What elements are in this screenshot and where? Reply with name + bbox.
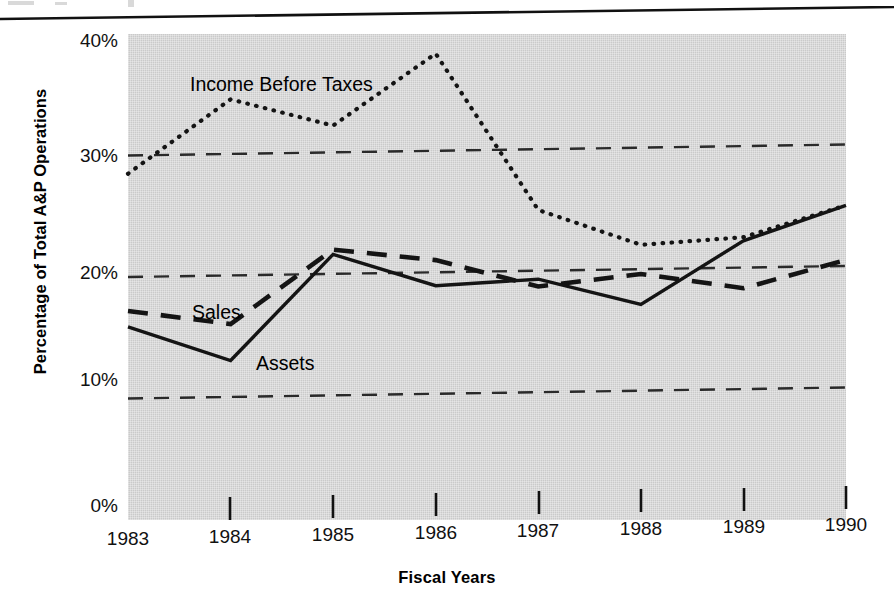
x-axis-title: Fiscal Years [0, 568, 894, 587]
plot-svg [128, 34, 846, 520]
y-tick-30: 30% [80, 145, 118, 167]
gridline-10 [128, 388, 846, 399]
series-assets [128, 205, 846, 360]
x-tick-marks [230, 486, 846, 520]
y-tick-40: 40% [80, 30, 118, 52]
y-axis-title: Percentage of Total A&P Operations [31, 22, 50, 442]
x-tick-1989: 1989 [699, 516, 789, 538]
annotation-income-before-taxes: Income Before Taxes [190, 73, 373, 96]
y-tick-20: 20% [80, 262, 118, 284]
plot-area: Income Before Taxes Sales Assets [128, 34, 846, 520]
y-tick-10: 10% [80, 369, 118, 391]
scan-artifact-speck-left [8, 1, 34, 5]
y-tick-0: 0% [91, 495, 118, 517]
x-tick-1990: 1990 [801, 514, 891, 536]
x-tick-1983: 1983 [83, 528, 173, 550]
chart-page: Percentage of Total A&P Operations 40% 3… [0, 0, 894, 593]
annotation-sales: Sales [192, 301, 241, 324]
x-tick-1988: 1988 [596, 518, 686, 540]
page-divider-rule [0, 6, 894, 22]
x-tick-1985: 1985 [288, 524, 378, 546]
x-tick-1987: 1987 [493, 520, 583, 542]
gridlines [128, 145, 846, 399]
scan-artifact-speck-right [55, 2, 67, 5]
x-tick-1984: 1984 [185, 526, 275, 548]
x-tick-1986: 1986 [391, 522, 481, 544]
gridline-30 [128, 145, 846, 156]
chart-figure: Percentage of Total A&P Operations 40% 3… [0, 22, 894, 593]
gridline-20 [128, 266, 846, 277]
annotation-assets: Assets [256, 352, 315, 375]
